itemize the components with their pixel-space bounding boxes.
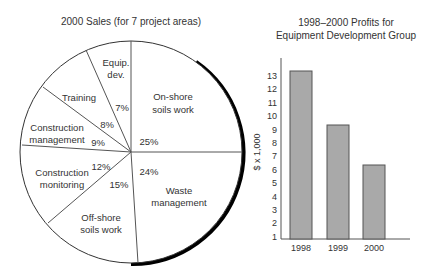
y-tick-label: 11 xyxy=(268,98,277,108)
slice-pct-mgmt: 9% xyxy=(91,137,105,148)
y-tick-label: 7 xyxy=(272,151,277,161)
slice-pct-training: 8% xyxy=(100,119,114,130)
slice-label-mgmt: Construction xyxy=(30,122,83,133)
x-tick-label: 1998 xyxy=(291,243,311,253)
slice-label-onshore: soils work xyxy=(152,104,194,115)
y-tick-label: 12 xyxy=(267,84,277,94)
slice-label-equip: Equip. xyxy=(103,57,130,68)
bar-2000 xyxy=(363,165,385,239)
y-tick-label: 8 xyxy=(272,138,277,148)
slice-label-waste: management xyxy=(151,197,207,208)
slice-pct-offshore: 15% xyxy=(109,179,129,190)
slice-label-offshore: Off-shore xyxy=(81,212,120,223)
slice-label-monitoring: Construction xyxy=(35,167,88,178)
slice-label-onshore: On-shore xyxy=(153,91,193,102)
y-tick-label: 13 xyxy=(267,71,277,81)
slice-label-training: Training xyxy=(62,92,96,103)
y-tick-label: 6 xyxy=(272,165,277,175)
slice-label-offshore: soils work xyxy=(80,224,122,235)
y-tick-label: 10 xyxy=(267,111,277,121)
y-tick-label: 9 xyxy=(272,125,277,135)
pie-chart: On-shore soils work 25% Waste management… xyxy=(0,0,260,280)
slice-pct-equip: 7% xyxy=(115,102,129,113)
y-tick-label: 4 xyxy=(272,192,277,202)
slice-label-equip: dev. xyxy=(107,69,124,80)
bar-chart-title-line2: Equipment Development Group xyxy=(261,29,431,42)
bar-chart-title: 1998–2000 Profits for Equipment Developm… xyxy=(261,16,431,42)
bar-chart-title-line1: 1998–2000 Profits for xyxy=(261,16,431,29)
slice-label-mgmt: management xyxy=(29,134,85,145)
y-tick-label: 1 xyxy=(272,232,277,242)
x-tick-label: 1999 xyxy=(328,243,348,253)
slice-pct-waste: 24% xyxy=(139,166,159,177)
slice-pct-monitoring: 12% xyxy=(91,161,111,172)
y-tick-label: 3 xyxy=(272,205,277,215)
slice-label-monitoring: monitoring xyxy=(40,179,84,190)
y-tick-label: 5 xyxy=(272,178,277,188)
bar-1999 xyxy=(327,125,349,239)
x-tick-label: 2000 xyxy=(364,243,384,253)
slice-label-waste: Waste xyxy=(166,185,193,196)
y-tick-label: 2 xyxy=(272,218,277,228)
slice-pct-onshore: 25% xyxy=(139,136,159,147)
bar-1998 xyxy=(290,71,312,239)
